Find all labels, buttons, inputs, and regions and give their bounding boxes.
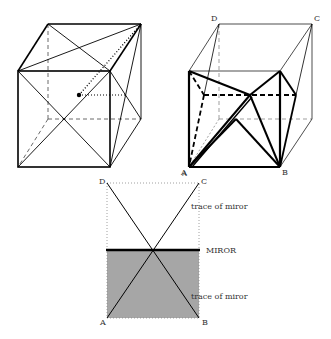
right-cube-heavy-line [189, 119, 236, 167]
left-cube-hidden-edge [18, 119, 48, 167]
right-cube-label-d: D [211, 14, 217, 23]
right-cube-heavy-line [189, 95, 250, 167]
right-cube-heavy-line [236, 119, 280, 167]
right-cube-heavy-line [250, 71, 280, 95]
right-cube-edge [189, 24, 219, 71]
right-cube-edge [280, 24, 312, 71]
mirror-label-b: B [202, 318, 208, 327]
mirror-diagram: D C A A B trace of miror trace of miror … [99, 170, 248, 327]
left-cube-diagonal [48, 24, 110, 71]
mirror-label: MIROR [206, 246, 237, 255]
mirror-label-c: C [201, 177, 207, 186]
right-cube-heavy-line [280, 71, 296, 95]
left-cube-center-point [77, 93, 81, 97]
left-cube [18, 24, 141, 167]
mirror-region [107, 251, 199, 318]
right-cube-line [280, 95, 296, 167]
right-cube: D C A B [180, 14, 320, 177]
trace-label-upper: trace of miror [191, 202, 248, 211]
mirror-label-a-top: A [181, 170, 188, 178]
right-cube-line [204, 24, 219, 95]
right-cube-heavy-line [189, 71, 250, 95]
mirror-label-a: A [99, 318, 106, 327]
left-cube-edge [110, 119, 141, 167]
right-cube-label-c: C [314, 14, 320, 23]
right-cube-label-b: B [282, 168, 288, 177]
left-cube-diagonal [110, 71, 141, 119]
figure-canvas: D C A B D C A A B trace of miror trace o… [0, 0, 331, 339]
right-cube-heavy-line [250, 95, 280, 167]
trace-label-lower: trace of miror [191, 292, 248, 301]
left-cube-edge [18, 24, 48, 71]
mirror-label-d: D [99, 177, 105, 186]
right-cube-line [296, 24, 312, 95]
